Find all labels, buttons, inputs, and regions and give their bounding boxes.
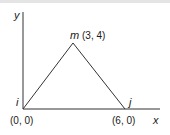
y-axis-label: y [13, 9, 21, 21]
edge-i-m [23, 43, 73, 109]
x-axis-label: x [152, 114, 159, 126]
node-i-coord: (0, 0) [10, 115, 33, 126]
node-i-label: i [16, 96, 19, 108]
edge-m-j [73, 43, 125, 109]
triangle-diagram: y x m (3, 4) i (0, 0) j (6, 0) [0, 0, 170, 135]
node-m-label: m [70, 29, 79, 41]
node-m-coord: (3, 4) [82, 30, 105, 41]
node-j-label: j [127, 96, 132, 108]
node-j-coord: (6, 0) [112, 115, 135, 126]
